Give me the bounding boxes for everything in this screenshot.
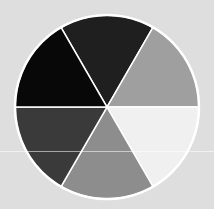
grayscale-wheel (0, 0, 214, 209)
scan-line (0, 151, 214, 152)
